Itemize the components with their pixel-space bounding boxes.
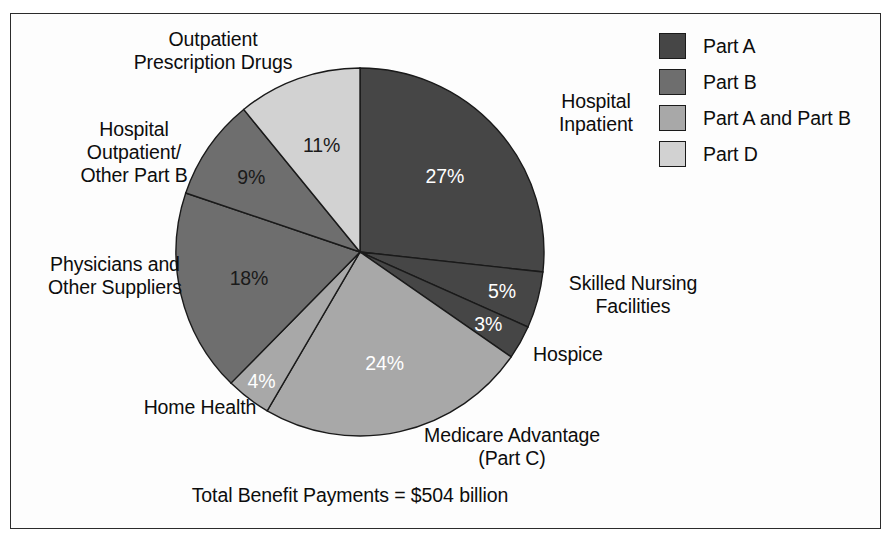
legend-item-label: Part B [703, 71, 757, 94]
pie-slice-percent-label: 18% [230, 267, 269, 289]
legend-item: Part D [659, 136, 889, 172]
legend: Part APart BPart A and Part BPart D [659, 28, 889, 172]
label-hospice: Hospice [533, 343, 733, 366]
legend-swatch [659, 69, 686, 95]
legend-swatch [659, 33, 686, 59]
legend-swatch [659, 105, 686, 131]
label-hospital-inpatient: HospitalInpatient [516, 90, 676, 136]
legend-item: Part B [659, 64, 889, 100]
legend-item-label: Part A [703, 35, 756, 58]
pie-slice-percent-label: 9% [237, 166, 265, 188]
pie-slice-percent-label: 4% [248, 370, 276, 392]
label-skilled-nursing-facilities: Skilled NursingFacilities [533, 272, 733, 318]
pie-slice-percent-label: 5% [488, 280, 516, 302]
pie-chart-figure: 27%5%3%24%4%18%9%11% OutpatientPrescript… [0, 0, 895, 542]
label-hospital-outpatient: HospitalOutpatient/Other Part B [34, 118, 234, 187]
legend-item: Part A and Part B [659, 100, 889, 136]
pie-slice-percent-label: 11% [303, 134, 340, 156]
legend-item-label: Part A and Part B [703, 107, 851, 130]
legend-item-label: Part D [703, 143, 758, 166]
pie-slice-percent-label: 24% [365, 352, 404, 374]
label-physicians-and-other-suppliers: Physicians andOther Suppliers [20, 253, 210, 299]
pie-slice-percent-label: 27% [426, 165, 465, 187]
label-medicare-advantage: Medicare Advantage(Part C) [392, 424, 632, 470]
pie-slice-percent-label: 3% [474, 313, 502, 335]
label-outpatient-prescription-drugs: OutpatientPrescription Drugs [98, 28, 328, 74]
legend-item: Part A [659, 28, 889, 64]
legend-swatch [659, 141, 686, 167]
label-home-health: Home Health [110, 396, 290, 419]
total-benefit-payments-caption: Total Benefit Payments = $504 billion [0, 484, 700, 507]
